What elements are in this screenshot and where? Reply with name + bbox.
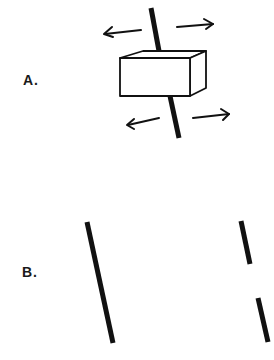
panel-b	[87, 221, 268, 343]
broken-line-upper	[241, 221, 250, 264]
arrow-right-icon	[177, 19, 213, 29]
block-right-face	[190, 51, 206, 96]
arrow-right-icon	[193, 109, 229, 120]
block-front-face	[120, 58, 190, 96]
panel-a	[104, 8, 229, 138]
diagram-canvas	[0, 0, 274, 360]
block	[120, 51, 206, 96]
rod-lower	[170, 96, 179, 138]
broken-line-lower	[258, 298, 268, 342]
continuous-line	[87, 222, 113, 343]
arrow-left-icon	[104, 27, 141, 37]
arrow-left-icon	[127, 118, 159, 129]
rod-upper	[151, 8, 159, 51]
